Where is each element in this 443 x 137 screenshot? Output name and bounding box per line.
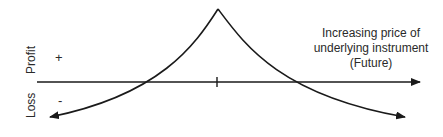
profit-axis-label: Profit [24,46,38,74]
plus-sign: + [55,51,63,65]
minus-sign: - [58,94,62,108]
x-axis-description-line2: underlying instrument [296,41,443,56]
x-axis-description-line3: (Future) [296,56,443,71]
x-axis-description-line1: Increasing price of [296,26,443,41]
x-axis-description: Increasing price of underlying instrumen… [296,26,443,71]
loss-axis-label: Loss [24,93,38,118]
payoff-curve-left [50,9,218,117]
